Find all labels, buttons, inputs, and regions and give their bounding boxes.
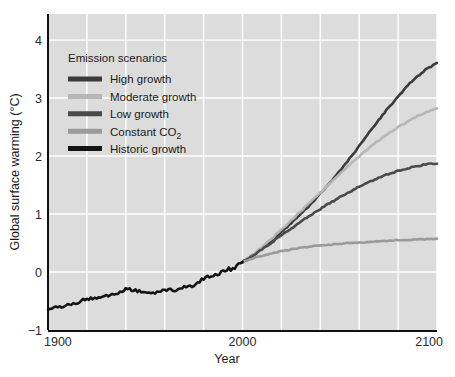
x-tick-label: 2100 [415, 335, 443, 349]
legend-label-historic-growth: Historic growth [110, 143, 186, 155]
legend-title: Emission scenarios [68, 52, 167, 64]
y-tick-label: 0 [35, 266, 42, 280]
y-tick-labels: −101234 [28, 34, 42, 338]
legend-label-high-growth: High growth [110, 73, 171, 85]
x-axis-title: Year [214, 352, 239, 366]
x-tick-labels: 190020002100 [44, 335, 443, 349]
y-tick-label: 1 [35, 208, 42, 222]
chart-figure: −101234 190020002100 Year Global surface… [0, 0, 455, 377]
legend-label-low-growth: Low growth [110, 108, 169, 120]
y-tick-label: 4 [35, 34, 42, 48]
y-tick-label: −1 [28, 324, 42, 338]
y-axis-title: Global surface warming (°C) [8, 93, 22, 250]
x-tick-label: 1900 [44, 335, 72, 349]
warming-projection-chart: −101234 190020002100 Year Global surface… [0, 0, 455, 377]
legend-label-moderate-growth: Moderate growth [110, 91, 196, 103]
y-tick-label: 2 [35, 150, 42, 164]
y-tick-label: 3 [35, 92, 42, 106]
x-tick-label: 2000 [229, 335, 257, 349]
